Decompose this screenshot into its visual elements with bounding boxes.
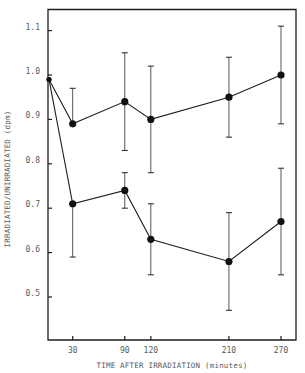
y-tick-label: 1.1 <box>26 23 41 32</box>
data-point <box>147 116 154 123</box>
data-point <box>225 94 232 101</box>
data-point <box>121 98 128 105</box>
x-tick-label: 210 <box>222 346 237 355</box>
y-tick-label: 1.0 <box>26 67 41 76</box>
data-point <box>225 258 232 265</box>
series-line <box>49 79 281 261</box>
x-tick-label: 90 <box>120 346 130 355</box>
y-tick-label: 0.6 <box>26 245 41 254</box>
plot-border <box>48 10 296 341</box>
data-point <box>121 187 128 194</box>
data-point <box>69 120 76 127</box>
y-tick-label: 0.5 <box>26 289 41 298</box>
y-tick-label: 0.8 <box>26 156 41 165</box>
series-lower <box>47 77 285 310</box>
data-point <box>69 200 76 207</box>
y-axis-title: IRRADIATED/UNIRRADIATED (dpm) <box>3 111 12 248</box>
x-axis: 3090120210270 <box>68 336 289 355</box>
data-point <box>147 236 154 243</box>
data-point <box>277 218 284 225</box>
x-tick-label: 120 <box>144 346 159 355</box>
data-point <box>47 77 52 82</box>
y-tick-label: 0.7 <box>26 200 41 209</box>
x-tick-label: 270 <box>274 346 289 355</box>
y-tick-label: 0.9 <box>26 111 41 120</box>
series-upper <box>47 26 285 173</box>
series-line <box>49 75 281 124</box>
data-point <box>277 71 284 78</box>
plot-frame <box>48 10 296 341</box>
line-chart: 0.50.60.70.80.91.01.1 3090120210270 TIME… <box>0 0 305 373</box>
x-axis-title: TIME AFTER IRRADIATION (minutes) <box>97 361 248 370</box>
data-series <box>47 26 285 310</box>
x-tick-label: 30 <box>68 346 78 355</box>
